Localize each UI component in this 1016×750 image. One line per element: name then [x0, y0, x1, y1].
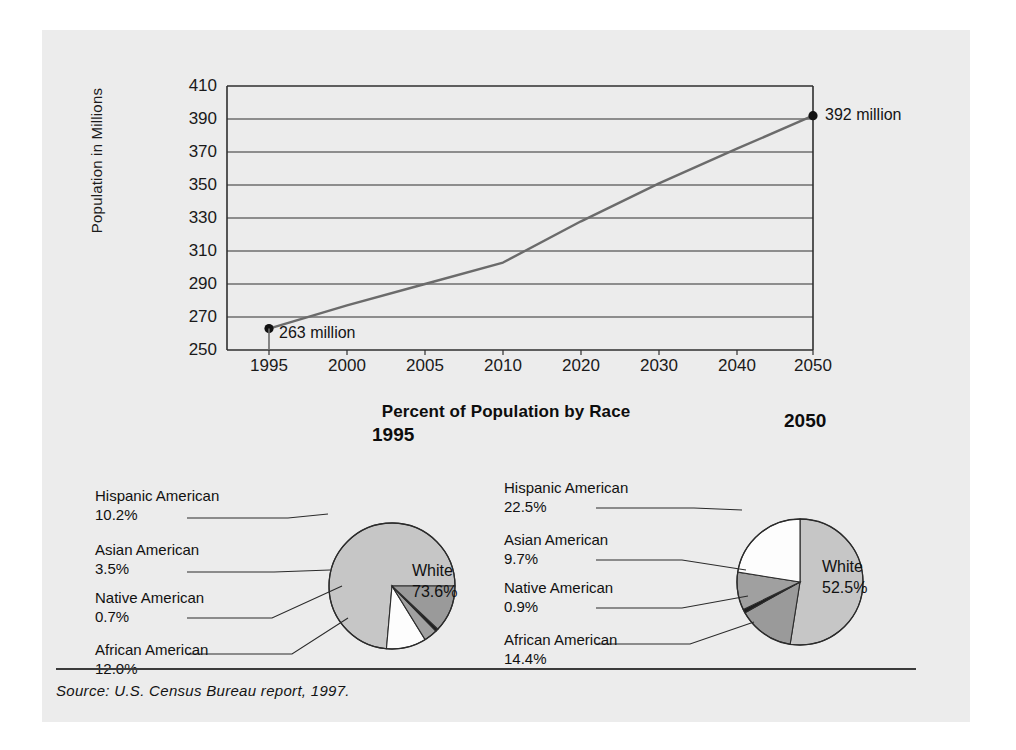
pie-label-value: 3.5%	[95, 559, 199, 578]
line-chart-y-axis-label: Population in Millions	[88, 71, 105, 251]
pie-center-label-value: 52.5%	[822, 577, 867, 598]
pie-slice-label: Asian American3.5%	[95, 540, 199, 578]
leader-line	[596, 560, 746, 570]
x-axis-tick-label: 2030	[624, 356, 694, 376]
pie-label-name: Asian American	[95, 540, 199, 559]
pie-slice-label: African American14.4%	[504, 630, 617, 668]
pie-center-label-name: White	[822, 556, 867, 577]
end-annotation: 392 million	[825, 106, 901, 124]
leader-line	[187, 570, 330, 572]
pie-label-value: 0.7%	[95, 607, 204, 626]
pie-center-label: White52.5%	[822, 556, 867, 598]
x-axis-tick-label: 2000	[312, 356, 382, 376]
population-line	[269, 116, 813, 329]
pie-center-label: White73.6%	[412, 560, 457, 602]
line-chart: Population in Millions 263 million 392 m…	[42, 30, 970, 360]
leader-line	[596, 622, 754, 644]
y-axis-tick-label: 390	[171, 109, 217, 129]
pie-slice-label: Asian American9.7%	[504, 530, 608, 568]
pie-label-name: Hispanic American	[95, 486, 219, 505]
pie-section-title: Percent of Population by Race	[42, 402, 970, 422]
pie-year-heading-1995: 1995	[372, 424, 414, 446]
pie-label-value: 22.5%	[504, 497, 628, 516]
pie-label-name: African American	[95, 640, 208, 659]
y-axis-tick-label: 410	[171, 76, 217, 96]
pie-slice-label: Hispanic American22.5%	[504, 478, 628, 516]
x-axis-tick-label: 2010	[468, 356, 538, 376]
pie-slice-hispanic-american	[738, 519, 800, 582]
y-axis-tick-label: 290	[171, 274, 217, 294]
data-point-2050	[808, 111, 817, 120]
pie-center-label-value: 73.6%	[412, 581, 457, 602]
x-axis-tick-label: 2050	[778, 356, 848, 376]
pie-slice-label: Hispanic American10.2%	[95, 486, 219, 524]
y-axis-tick-label: 350	[171, 175, 217, 195]
pie-label-name: Asian American	[504, 530, 608, 549]
x-axis-tick-label: 2020	[546, 356, 616, 376]
source-note: Source: U.S. Census Bureau report, 1997.	[56, 682, 350, 699]
pie-label-name: Native American	[504, 578, 613, 597]
leader-line	[187, 618, 348, 654]
pie-label-name: African American	[504, 630, 617, 649]
y-axis-tick-label: 370	[171, 142, 217, 162]
x-axis-tick-label: 2040	[702, 356, 772, 376]
leader-line	[187, 586, 342, 618]
pie-year-heading-2050: 2050	[784, 410, 826, 432]
pie-center-label-name: White	[412, 560, 457, 581]
y-axis-tick-label: 310	[171, 241, 217, 261]
start-annotation: 263 million	[279, 324, 355, 342]
x-axis-tick-label: 2005	[390, 356, 460, 376]
pie-label-value: 0.9%	[504, 597, 613, 616]
leader-line	[596, 596, 748, 608]
y-axis-tick-label: 270	[171, 307, 217, 327]
y-axis-tick-label: 330	[171, 208, 217, 228]
pie-label-name: Native American	[95, 588, 204, 607]
pie-label-name: Hispanic American	[504, 478, 628, 497]
pie-slice-label: Native American0.9%	[504, 578, 613, 616]
pie-slice-label: African American12.0%	[95, 640, 208, 678]
pie-label-value: 14.4%	[504, 649, 617, 668]
y-axis-tick-label: 250	[171, 340, 217, 360]
pie-slice-label: Native American0.7%	[95, 588, 204, 626]
x-axis-tick-label: 1995	[234, 356, 304, 376]
pie-label-value: 9.7%	[504, 549, 608, 568]
footer-divider	[56, 668, 916, 670]
figure-panel: Population in Millions 263 million 392 m…	[42, 30, 970, 722]
pie-label-value: 10.2%	[95, 505, 219, 524]
